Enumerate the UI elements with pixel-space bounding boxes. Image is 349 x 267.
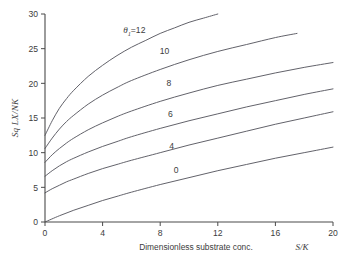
x-tick-label: 16 [271,228,281,238]
curve-labels-group: θ1=12108640 [123,25,179,174]
x-axis-title-symbol: S/K [295,242,309,252]
x-axis-title: Dimensionless substrate conc. [139,242,253,252]
y-tick-label: 10 [28,148,38,158]
y-tick-label: 0 [33,217,38,227]
y-axis-ticks: 051015202530 [28,9,45,227]
x-tick-label: 4 [100,228,105,238]
curve-label-12: θ1=12 [123,25,146,36]
x-axis-ticks: 048121620 [43,222,338,238]
chart-curve-10 [45,33,297,148]
chart-axes-group [45,14,333,222]
curve-label-8: 8 [166,78,171,88]
y-axis-title: Sq LX/NK [10,98,20,137]
chart-figure: 048121620 051015202530 θ1=12108640 Dimen… [0,0,349,267]
x-tick-label: 20 [328,228,338,238]
chart-series-group [45,14,333,222]
chart-curve-8 [45,63,333,163]
curve-label-10: 10 [160,46,170,56]
y-tick-label: 5 [33,183,38,193]
curve-label-6: 6 [168,109,173,119]
x-tick-label: 12 [213,228,223,238]
y-tick-label: 15 [28,113,38,123]
x-tick-label: 8 [158,228,163,238]
y-tick-label: 20 [28,79,38,89]
chart-canvas: 048121620 051015202530 θ1=12108640 Dimen… [0,0,349,267]
curve-label-0: 0 [174,165,179,175]
y-tick-label: 30 [28,9,38,19]
x-tick-label: 0 [43,228,48,238]
chart-curve-0 [45,147,333,222]
curve-label-4: 4 [169,141,174,151]
chart-curve-6 [45,89,333,176]
y-tick-label: 25 [28,44,38,54]
